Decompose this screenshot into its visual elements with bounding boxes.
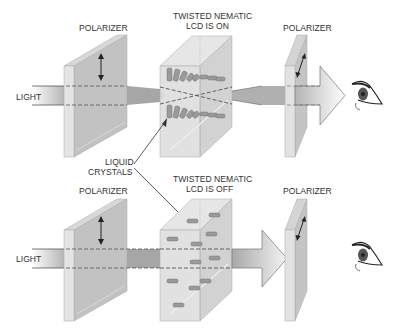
callout-line2: CRYSTALS	[88, 167, 133, 177]
lcd-cell-off	[160, 199, 232, 321]
left-polarizer-bottom	[64, 199, 127, 321]
right-polarizer-label-top: POLARIZER	[283, 23, 332, 33]
callout-line1: LIQUID	[105, 157, 134, 167]
lcd-label-line1-top: TWISTED NEMATIC	[173, 11, 252, 21]
eye-icon	[352, 81, 382, 110]
light-label-bottom: LIGHT	[16, 254, 42, 264]
right-polarizer-bottom	[285, 199, 307, 321]
right-polarizer-label-bottom: POLARIZER	[283, 186, 332, 196]
top-panel: LIGHT POLARIZER	[16, 11, 382, 157]
lcd-diagram: LIGHT POLARIZER	[0, 0, 402, 333]
left-polarizer-label-bottom: POLARIZER	[79, 186, 128, 196]
lcd-cell-on	[160, 36, 232, 157]
light-label-top: LIGHT	[16, 92, 42, 102]
eye-icon	[352, 242, 382, 271]
left-polarizer-label-top: POLARIZER	[79, 23, 128, 33]
bottom-panel: LIGHT POLARIZER	[16, 174, 382, 321]
lcd-label-line2-bottom: LCD IS OFF	[186, 184, 233, 194]
light-arrow-icon	[232, 230, 287, 287]
lcd-label-line2-top: LCD IS ON	[186, 21, 229, 31]
lcd-label-line1-bottom: TWISTED NEMATIC	[173, 174, 252, 184]
left-polarizer-top	[64, 35, 127, 157]
